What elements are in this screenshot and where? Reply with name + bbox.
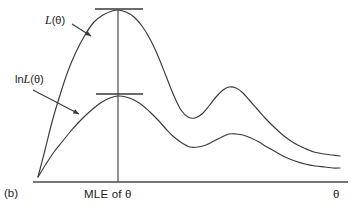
log-operator: ln: [15, 73, 24, 85]
annotation-arrow-lnltheta: [33, 90, 79, 114]
curve-lnltheta: [38, 96, 340, 177]
curve-label-likelihood: L(θ): [45, 14, 65, 26]
x-axis-title: θ: [333, 189, 339, 201]
panel-label: (b): [4, 188, 18, 200]
figure-panel-b: (b) MLE of θ θ L(θ) lnL(θ): [0, 0, 358, 214]
curve-ltheta: [38, 10, 340, 177]
likelihood-symbol: L: [45, 13, 52, 27]
leader-line: [33, 90, 79, 114]
mle-axis-tick-label: MLE of θ: [84, 189, 132, 201]
curve-label-loglikelihood: lnL(θ): [15, 73, 44, 85]
figure-plot-area: [0, 0, 358, 214]
likelihood-argument: (θ): [52, 14, 65, 26]
loglikelihood-argument: (θ): [30, 73, 43, 85]
